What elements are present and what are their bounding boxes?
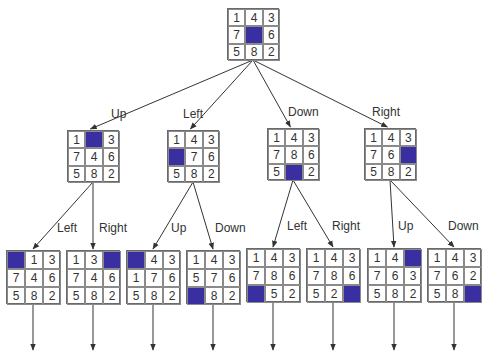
tile: 8 — [325, 267, 343, 285]
tile: 4 — [145, 251, 163, 269]
tile: 5 — [428, 285, 446, 303]
tile: 4 — [446, 249, 464, 267]
tile: 4 — [265, 249, 283, 267]
tile: 6 — [223, 269, 241, 287]
move-label-down: Down — [215, 221, 246, 235]
tile: 6 — [163, 269, 181, 287]
tile: 2 — [283, 285, 301, 303]
blank-tile — [404, 249, 422, 267]
blank-tile — [7, 251, 25, 269]
tile: 6 — [343, 267, 361, 285]
tile: 1 — [187, 251, 205, 269]
tile: 1 — [67, 251, 85, 269]
tile: 3 — [223, 251, 241, 269]
tile: 8 — [265, 267, 283, 285]
tile: 5 — [7, 287, 25, 305]
blank-tile — [103, 251, 121, 269]
tile: 8 — [85, 287, 103, 305]
tile: 3 — [163, 251, 181, 269]
puzzle-state-right-up: 14763582 — [367, 248, 421, 302]
puzzle-state-down-right: 14378652 — [306, 248, 360, 302]
tile: 7 — [185, 148, 202, 165]
move-label-down: Down — [288, 105, 319, 119]
tile: 4 — [85, 148, 102, 165]
puzzle-state-left: 14376582 — [167, 130, 219, 182]
tile: 2 — [163, 287, 181, 305]
tile: 5 — [307, 285, 325, 303]
tile: 7 — [228, 26, 245, 43]
tile: 8 — [386, 285, 404, 303]
move-label-up: Up — [398, 219, 413, 233]
tile: 6 — [382, 146, 399, 163]
tile: 5 — [365, 164, 382, 181]
tile: 2 — [103, 287, 121, 305]
blank-tile — [464, 285, 482, 303]
tile: 7 — [365, 146, 382, 163]
tile: 6 — [446, 267, 464, 285]
puzzle-state-right-down: 14376258 — [427, 248, 481, 302]
tile: 6 — [103, 148, 120, 165]
tile: 5 — [168, 166, 185, 183]
tile: 4 — [205, 251, 223, 269]
move-label-left: Left — [287, 219, 307, 233]
tile: 5 — [368, 285, 386, 303]
tile: 5 — [68, 166, 85, 183]
tile: 4 — [25, 269, 43, 287]
tile: 3 — [203, 131, 220, 148]
tile: 6 — [283, 267, 301, 285]
blank-tile — [247, 285, 265, 303]
move-label-right: Right — [372, 105, 400, 119]
blank-tile — [85, 131, 102, 148]
tile: 2 — [464, 267, 482, 285]
tile: 1 — [247, 249, 265, 267]
tile: 7 — [67, 269, 85, 287]
move-label-down: Down — [448, 219, 479, 233]
tile: 4 — [85, 269, 103, 287]
tile: 8 — [285, 146, 302, 163]
tile: 3 — [263, 9, 280, 26]
tile: 3 — [303, 129, 320, 146]
tile: 3 — [464, 249, 482, 267]
tile: 8 — [145, 287, 163, 305]
tile: 4 — [245, 9, 262, 26]
puzzle-state-up: 13746582 — [67, 130, 119, 182]
tile: 5 — [67, 287, 85, 305]
move-label-up: Up — [111, 107, 126, 121]
tile: 4 — [285, 129, 302, 146]
tile: 5 — [127, 287, 145, 305]
tile: 3 — [103, 131, 120, 148]
tile: 1 — [25, 251, 43, 269]
blank-tile — [187, 287, 205, 305]
tile: 1 — [307, 249, 325, 267]
tile: 2 — [223, 287, 241, 305]
move-label-right: Right — [332, 219, 360, 233]
tile: 8 — [382, 164, 399, 181]
tile: 4 — [382, 129, 399, 146]
tile: 6 — [103, 269, 121, 287]
tile: 5 — [268, 164, 285, 181]
blank-tile — [168, 148, 185, 165]
tile: 7 — [145, 269, 163, 287]
tile: 8 — [245, 44, 262, 61]
tile: 4 — [386, 249, 404, 267]
tile: 2 — [263, 44, 280, 61]
tile: 7 — [7, 269, 25, 287]
move-label-up: Up — [171, 221, 186, 235]
tile: 2 — [325, 285, 343, 303]
tile: 3 — [283, 249, 301, 267]
tile: 3 — [343, 249, 361, 267]
tile: 6 — [303, 146, 320, 163]
tile: 1 — [365, 129, 382, 146]
puzzle-state-up-left: 13746582 — [6, 250, 60, 304]
tile: 4 — [185, 131, 202, 148]
tile: 3 — [404, 267, 422, 285]
tile: 8 — [205, 287, 223, 305]
tile: 1 — [428, 249, 446, 267]
tile: 2 — [303, 164, 320, 181]
tile: 7 — [268, 146, 285, 163]
blank-tile — [285, 164, 302, 181]
tile: 1 — [368, 249, 386, 267]
tile: 2 — [203, 166, 220, 183]
tile: 8 — [25, 287, 43, 305]
tile: 6 — [263, 26, 280, 43]
